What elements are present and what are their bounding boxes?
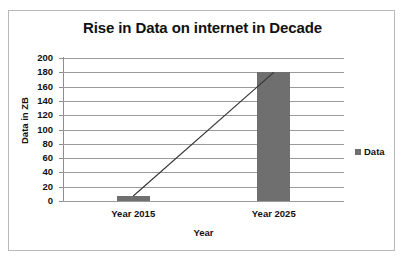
y-axis-title: Data in ZB — [19, 86, 30, 156]
y-axis-tick-label: 180 — [13, 67, 53, 77]
y-axis-tick-label: 0 — [13, 196, 53, 206]
y-axis-tick — [59, 201, 63, 202]
line-series-path — [133, 72, 274, 196]
y-axis-tick-label: 40 — [13, 167, 53, 177]
legend-label: Data — [364, 146, 385, 157]
y-axis-tick-label: 20 — [13, 182, 53, 192]
x-axis-title: Year — [63, 227, 344, 238]
chart-frame: Rise in Data on internet in Decade 20018… — [8, 10, 395, 251]
x-axis-tick-label: Year 2025 — [229, 208, 319, 219]
y-axis-tick-label: 200 — [13, 53, 53, 63]
chart-title: Rise in Data on internet in Decade — [9, 19, 396, 36]
gridline — [63, 201, 344, 202]
x-axis-tick-label: Year 2015 — [88, 208, 178, 219]
legend-swatch-icon — [355, 149, 361, 155]
chart-legend: Data — [355, 146, 385, 157]
line-series — [63, 58, 344, 201]
